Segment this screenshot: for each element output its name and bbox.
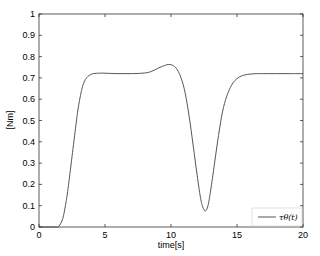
x-tick-label: 20 bbox=[298, 230, 308, 240]
series-line-tau-theta bbox=[39, 64, 303, 227]
axis-ticks bbox=[39, 14, 303, 227]
y-axis-label: [Nm] bbox=[5, 111, 15, 130]
x-tick-label: 15 bbox=[232, 230, 242, 240]
y-tick-label: 0.8 bbox=[22, 52, 35, 62]
x-tick-label: 10 bbox=[166, 230, 176, 240]
line-chart: 0510152000.10.20.30.40.50.60.70.80.91 ti… bbox=[0, 0, 320, 256]
x-tick-label: 0 bbox=[36, 230, 41, 240]
plot-area-frame bbox=[39, 14, 303, 227]
legend-label: τθ(t) bbox=[279, 213, 298, 222]
x-tick-label: 5 bbox=[102, 230, 107, 240]
x-axis-label: time[s] bbox=[158, 240, 185, 250]
y-tick-label: 0.1 bbox=[22, 201, 35, 211]
y-tick-label: 0.2 bbox=[22, 179, 35, 189]
legend: τθ(t) bbox=[252, 208, 302, 226]
y-tick-label: 0.3 bbox=[22, 158, 35, 168]
y-tick-label: 0.7 bbox=[22, 73, 35, 83]
y-tick-label: 0.9 bbox=[22, 30, 35, 40]
y-tick-label: 0.6 bbox=[22, 94, 35, 104]
y-tick-label: 0 bbox=[30, 222, 35, 232]
y-tick-label: 1 bbox=[30, 9, 35, 19]
y-tick-label: 0.5 bbox=[22, 116, 35, 126]
y-tick-label: 0.4 bbox=[22, 137, 35, 147]
